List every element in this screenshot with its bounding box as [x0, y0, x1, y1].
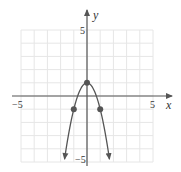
x-max-label: 5 [150, 99, 155, 110]
data-point [97, 106, 103, 112]
axes [12, 10, 172, 166]
x-min-label: −5 [12, 99, 23, 110]
parabola-graph: −5 5 x 5 −5 y [0, 0, 181, 172]
data-point [84, 80, 90, 86]
y-max-label: 5 [80, 25, 85, 36]
y-min-label: −5 [75, 154, 86, 165]
x-axis-label: x [165, 98, 172, 112]
data-point [71, 106, 77, 112]
y-axis-label: y [92, 8, 99, 22]
